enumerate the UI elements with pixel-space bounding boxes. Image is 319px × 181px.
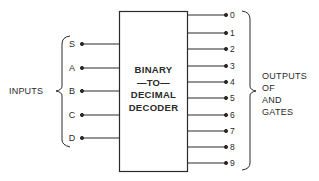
input-label-b: B — [67, 86, 77, 96]
decoder-title-line-3: DECIMAL — [119, 89, 188, 102]
input-dot-s — [80, 42, 83, 45]
output-dot-8 — [224, 145, 227, 148]
input-label-d: D — [67, 133, 77, 143]
output-dot-9 — [224, 161, 227, 164]
outputs-group-label-line-3: AND — [262, 94, 307, 106]
input-label-s: S — [67, 39, 77, 49]
decoder-title-line-2: —TO— — [119, 77, 188, 90]
output-dot-1 — [224, 31, 227, 34]
output-dot-3 — [224, 64, 227, 67]
decoder-title: BINARY —TO— DECIMAL DECODER — [119, 64, 188, 114]
output-label-6: 6 — [230, 110, 235, 120]
output-dot-6 — [224, 113, 227, 116]
output-label-3: 3 — [230, 61, 235, 71]
output-dot-0 — [224, 13, 227, 16]
output-dot-7 — [224, 129, 227, 132]
input-dot-b — [80, 89, 83, 92]
outputs-group-label-line-1: OUTPUTS — [262, 70, 307, 82]
output-dot-5 — [224, 96, 227, 99]
output-label-1: 1 — [230, 28, 235, 38]
output-label-9: 9 — [230, 158, 235, 168]
outputs-group-label-line-4: GATES — [262, 106, 307, 118]
output-label-7: 7 — [230, 126, 235, 136]
output-label-8: 8 — [230, 142, 235, 152]
input-label-c: C — [67, 110, 77, 120]
decoder-title-line-4: DECODER — [119, 102, 188, 115]
decoder-title-line-1: BINARY — [119, 64, 188, 77]
inputs-group-label: INPUTS — [9, 86, 43, 96]
output-label-5: 5 — [230, 93, 235, 103]
output-lines — [188, 13, 228, 164]
outputs-brace — [242, 11, 256, 170]
output-dot-4 — [224, 80, 227, 83]
output-label-2: 2 — [230, 44, 235, 54]
outputs-group-label-line-2: OF — [262, 82, 307, 94]
input-lines — [80, 42, 119, 139]
output-label-0: 0 — [230, 10, 235, 20]
input-dot-c — [80, 113, 83, 116]
outputs-group-label: OUTPUTS OF AND GATES — [262, 70, 307, 118]
output-dot-2 — [224, 47, 227, 50]
output-label-4: 4 — [230, 77, 235, 87]
input-dot-a — [80, 66, 83, 69]
input-label-a: A — [67, 63, 77, 73]
input-dot-d — [80, 136, 83, 139]
